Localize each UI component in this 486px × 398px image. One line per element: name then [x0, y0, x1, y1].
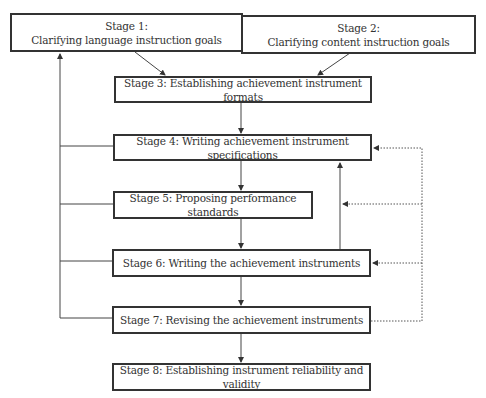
- stage-6-label: Stage 6: Writing the achievement instrum…: [123, 256, 361, 270]
- stage-2-box: Stage 2: Clarifying content instruction …: [241, 15, 476, 54]
- stage-7-box: Stage 7: Revising the achievement instru…: [112, 306, 371, 334]
- stage-4-box: Stage 4: Writing achievement instrument …: [113, 134, 372, 161]
- stage-8-box: Stage 8: Establishing instrument reliabi…: [112, 363, 371, 391]
- stage-8-label: Stage 8: Establishing instrument reliabi…: [114, 363, 369, 391]
- stage-1-label: Clarifying language instruction goals: [31, 33, 221, 47]
- stage-3-box: Stage 3: Establishing achievement instru…: [114, 76, 372, 103]
- stage-5-label: Stage 5: Proposing performance standards: [115, 191, 311, 219]
- stage-6-box: Stage 6: Writing the achievement instrum…: [112, 249, 371, 277]
- stage-2-title: Stage 2:: [337, 21, 380, 35]
- stage-5-box: Stage 5: Proposing performance standards: [113, 191, 313, 219]
- stage-7-label: Stage 7: Revising the achievement instru…: [120, 313, 363, 327]
- stage-2-label: Clarifying content instruction goals: [268, 35, 450, 49]
- stage-1-title: Stage 1:: [105, 19, 148, 33]
- stage-3-label: Stage 3: Establishing achievement instru…: [116, 76, 370, 104]
- stage-4-label: Stage 4: Writing achievement instrument …: [115, 134, 370, 162]
- stage-1-box: Stage 1: Clarifying language instruction…: [10, 13, 243, 52]
